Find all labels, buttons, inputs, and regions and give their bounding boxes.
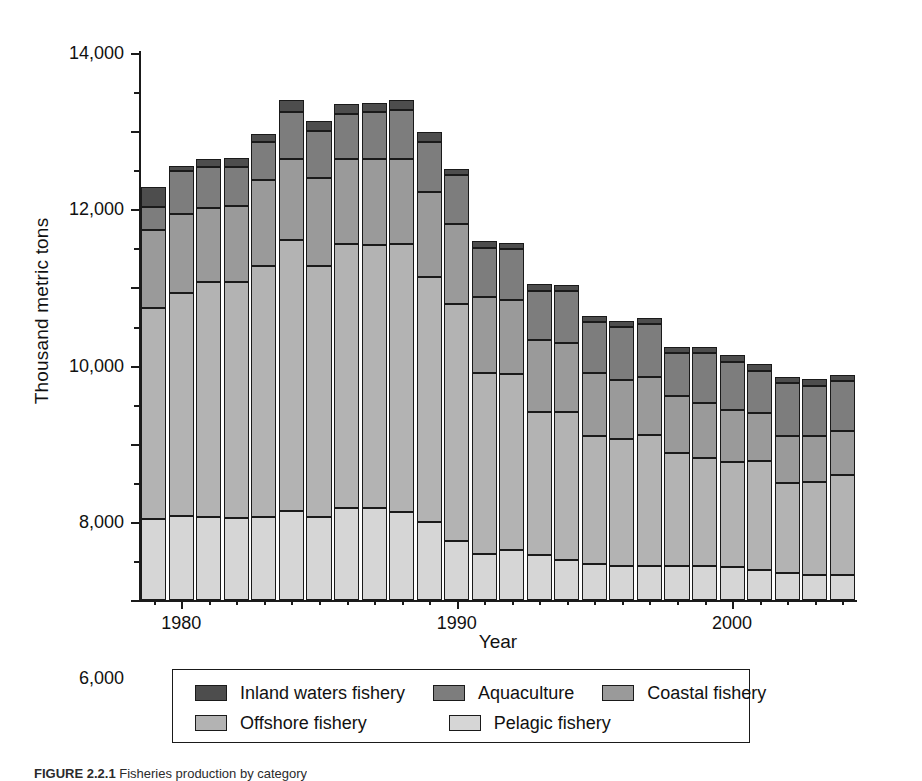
- bar-1980[interactable]: [169, 166, 194, 600]
- bar-1990[interactable]: [444, 169, 469, 600]
- y-axis-tick: 6,000: [131, 366, 140, 368]
- bar-segment: [499, 249, 524, 300]
- legend-label: Aquaculture: [478, 683, 574, 704]
- bar-segment: [334, 104, 359, 114]
- bar-segment: [251, 180, 276, 266]
- bar-segment: [637, 377, 662, 436]
- bar-1995[interactable]: [582, 316, 607, 600]
- x-axis-minor-tick: [512, 600, 514, 605]
- legend-item-pelagic-fishery: Pelagic fishery: [449, 713, 611, 734]
- bar-segment: [417, 192, 442, 276]
- x-axis-minor-tick: [815, 600, 817, 605]
- bar-segment: [720, 355, 745, 361]
- bar-segment: [609, 321, 634, 327]
- legend-swatch-icon: [195, 715, 227, 731]
- figure-container: Thousand metric tons 02,0004,0006,0008,0…: [0, 0, 922, 781]
- x-axis-minor-tick: [787, 600, 789, 605]
- bar-segment: [802, 436, 827, 482]
- bar-2002[interactable]: [775, 377, 800, 600]
- y-axis-tick: 12,000: [131, 131, 140, 133]
- bar-segment: [747, 461, 772, 569]
- bar-2003[interactable]: [802, 379, 827, 600]
- bar-segment: [196, 208, 221, 282]
- y-axis-tick: 2,000: [131, 522, 140, 524]
- bar-segment: [389, 244, 414, 512]
- bar-1981[interactable]: [196, 159, 221, 600]
- figure-caption: FIGURE 2.2.1 Fisheries production by cat…: [34, 766, 307, 781]
- bar-segment: [306, 266, 331, 517]
- bar-segment: [830, 575, 855, 600]
- bar-1987[interactable]: [362, 103, 387, 600]
- bar-1992[interactable]: [499, 243, 524, 600]
- caption-text: Fisheries production by category: [116, 766, 307, 781]
- x-axis-tick: [732, 600, 734, 609]
- legend-label: Inland waters fishery: [240, 683, 405, 704]
- bar-segment: [472, 248, 497, 298]
- x-axis-minor-tick: [705, 600, 707, 605]
- bar-segment: [334, 159, 359, 245]
- bar-segment: [554, 285, 579, 291]
- bar-segment: [582, 316, 607, 322]
- bar-segment: [224, 167, 249, 206]
- x-axis-minor-tick: [402, 600, 404, 605]
- bar-segment: [444, 175, 469, 225]
- bar-2000[interactable]: [720, 355, 745, 600]
- bar-1982[interactable]: [224, 158, 249, 600]
- bar-segment: [251, 517, 276, 600]
- bar-segment: [664, 347, 689, 353]
- bar-segment: [692, 458, 717, 566]
- bar-1998[interactable]: [664, 347, 689, 600]
- bar-segment: [224, 206, 249, 283]
- bar-segment: [720, 567, 745, 600]
- bar-1983[interactable]: [251, 134, 276, 601]
- bar-segment: [306, 517, 331, 600]
- bar-segment: [802, 482, 827, 574]
- bar-segment: [389, 159, 414, 244]
- x-axis-minor-tick: [760, 600, 762, 605]
- bar-segment: [747, 364, 772, 370]
- bar-segment: [609, 439, 634, 566]
- bar-segment: [775, 436, 800, 484]
- caption-number: FIGURE 2.2.1: [34, 766, 116, 781]
- bar-1997[interactable]: [637, 318, 662, 600]
- bar-1985[interactable]: [306, 121, 331, 600]
- bar-1991[interactable]: [472, 241, 497, 600]
- bar-segment: [830, 375, 855, 381]
- bar-segment: [527, 284, 552, 290]
- bar-segment: [417, 142, 442, 192]
- y-axis-minor-tick: [134, 248, 140, 250]
- bar-segment: [306, 121, 331, 131]
- bar-segment: [692, 403, 717, 457]
- bar-1994[interactable]: [554, 285, 579, 600]
- bar-segment: [362, 103, 387, 112]
- bar-segment: [499, 243, 524, 249]
- x-axis-title: Year: [140, 631, 856, 653]
- bar-1984[interactable]: [279, 100, 304, 600]
- bar-segment: [499, 550, 524, 600]
- bar-segment: [637, 318, 662, 324]
- bar-segment: [279, 159, 304, 240]
- bar-1986[interactable]: [334, 104, 359, 600]
- bar-1988[interactable]: [389, 100, 414, 600]
- legend-item-offshore-fishery: Offshore fishery: [195, 713, 367, 734]
- bar-segment: [664, 566, 689, 600]
- bar-2004[interactable]: [830, 375, 855, 600]
- bar-segment: [527, 340, 552, 412]
- x-axis-tick: [457, 600, 459, 609]
- bar-2001[interactable]: [747, 364, 772, 600]
- legend-label: Pelagic fishery: [494, 713, 611, 734]
- bar-1979[interactable]: [141, 187, 166, 600]
- bar-1996[interactable]: [609, 321, 634, 600]
- x-axis-minor-tick: [539, 600, 541, 605]
- y-axis-minor-tick: [134, 405, 140, 407]
- bar-segment: [554, 291, 579, 342]
- bar-1999[interactable]: [692, 347, 717, 600]
- bar-segment: [169, 171, 194, 214]
- bar-segment: [747, 371, 772, 414]
- bar-1989[interactable]: [417, 132, 442, 600]
- x-axis-line: [139, 600, 857, 602]
- bar-segment: [527, 291, 552, 341]
- bar-1993[interactable]: [527, 284, 552, 600]
- bar-segment: [169, 214, 194, 293]
- legend-swatch-icon: [602, 685, 634, 701]
